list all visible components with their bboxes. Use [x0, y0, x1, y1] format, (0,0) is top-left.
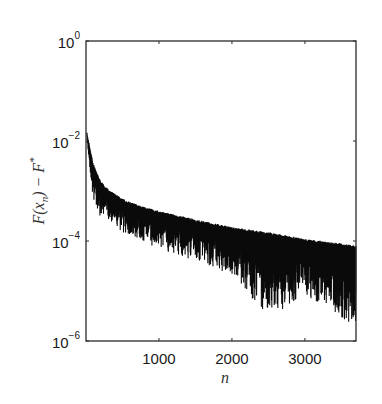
svg-text:F(xn) − F*: F(xn) − F*	[27, 157, 50, 226]
x-tick-label: 1000	[142, 350, 175, 367]
y-tick-label: 10−4	[52, 230, 81, 251]
y-tick-label: 10−2	[52, 130, 81, 151]
y-tick-label: 100	[58, 30, 81, 51]
x-tick-label: 3000	[288, 350, 321, 367]
axes-frame	[86, 41, 356, 341]
x-tick-label: 2000	[215, 350, 248, 367]
x-axis-label: n	[221, 369, 229, 386]
y-axis-label: F(xn) − F*	[27, 157, 50, 226]
data-line	[87, 133, 356, 322]
x-axis-ticks: 100020003000	[142, 41, 321, 367]
y-tick-label: 10−6	[52, 330, 81, 351]
chart: 100020003000 10010−210−410−6 n F(xn) − F…	[0, 0, 382, 404]
plot-data	[87, 133, 356, 322]
